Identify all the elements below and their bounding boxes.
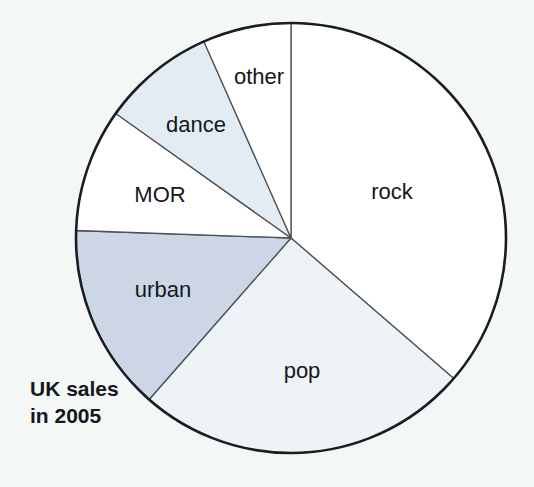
pie-slices-group [76,23,506,453]
pie-slice-label-pop: pop [284,358,321,383]
pie-slice-label-mor: MOR [134,182,185,207]
pie-slice-label-other: other [234,64,284,89]
pie-slice-label-urban: urban [135,277,191,302]
caption-line-1: UK sales [30,377,119,400]
pie-chart-svg: rockpopurbanMORdanceother UK sales in 20… [0,0,534,487]
pie-slice-label-dance: dance [166,112,226,137]
pie-slice-label-rock: rock [371,179,414,204]
pie-chart-figure: rockpopurbanMORdanceother UK sales in 20… [0,0,534,487]
caption-line-2: in 2005 [30,404,102,427]
